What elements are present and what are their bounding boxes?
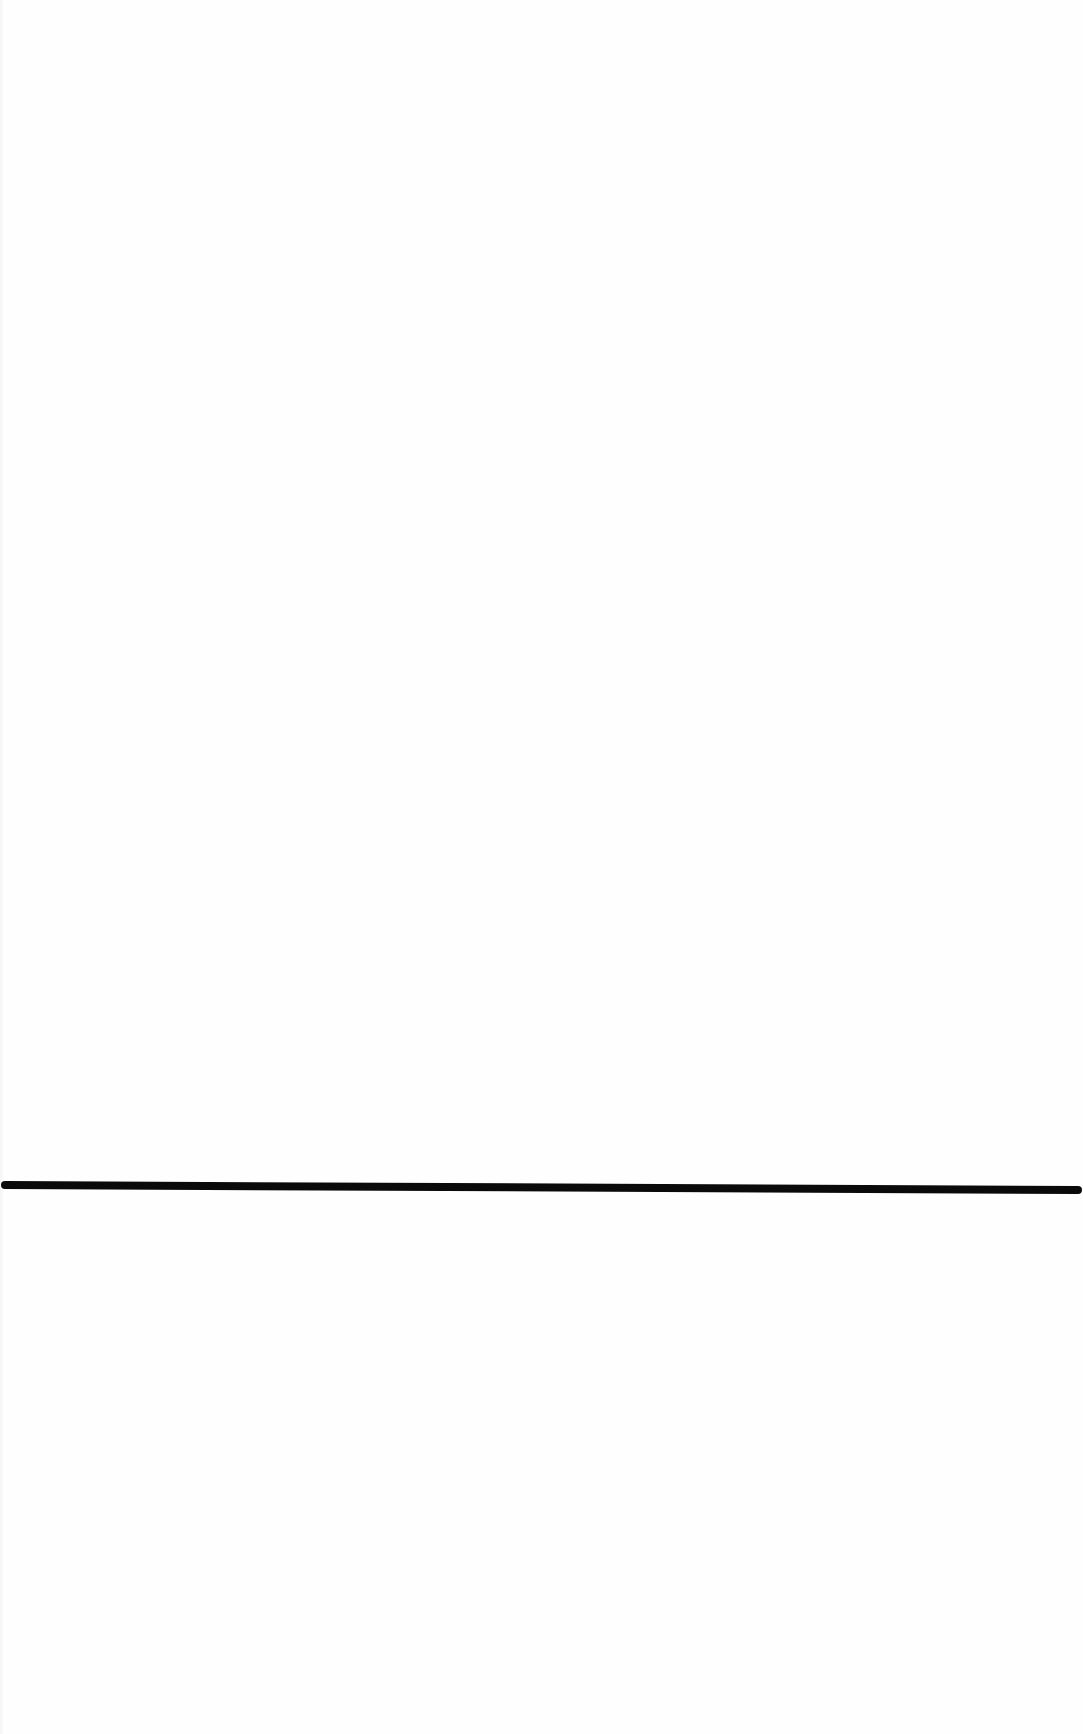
scan-edge-shadow [0,0,4,1734]
scanned-page [0,0,1083,1734]
horizontal-rule [0,1176,1083,1200]
rule-line [5,1185,1078,1190]
